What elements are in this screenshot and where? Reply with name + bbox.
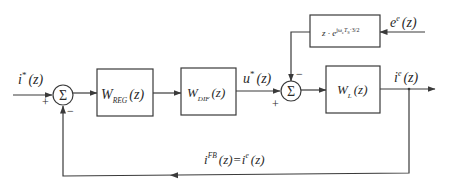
regulator-block: WREG(z) [97, 69, 153, 116]
summing-junction-1: Σ + − [42, 85, 74, 118]
control-signal: u*(z) [236, 69, 280, 91]
plus-sign: + [272, 97, 279, 111]
sigma-symbol: Σ [59, 88, 67, 103]
minus-sign: − [67, 104, 74, 118]
output-signal: ie(z) [380, 69, 435, 90]
summing-junction-2: Σ + − [272, 67, 303, 111]
plant-block: WL(z) [326, 66, 380, 113]
minus-sign: − [296, 67, 303, 81]
reference-input: i*(z) [13, 70, 52, 95]
disturbance-block: z · ejωeTS·3/2 [310, 15, 380, 47]
feedback-direction-arrow [170, 172, 178, 178]
output-label: ie(z) [394, 69, 419, 86]
disturbance-input: ee(z) [380, 14, 425, 32]
dif-block: WDIF(z) [181, 68, 236, 115]
plus-sign: + [42, 95, 49, 109]
feedback-label: iFB(z)=ie(z) [204, 151, 265, 167]
block-diagram: i*(z) Σ + − WREG(z) WDIF(z) u*(z) Σ + [0, 0, 452, 187]
control-label: u*(z) [243, 69, 272, 87]
sigma-symbol: Σ [287, 84, 295, 99]
disturbance-label: ee(z) [390, 14, 417, 31]
reference-label: i*(z) [18, 70, 44, 88]
